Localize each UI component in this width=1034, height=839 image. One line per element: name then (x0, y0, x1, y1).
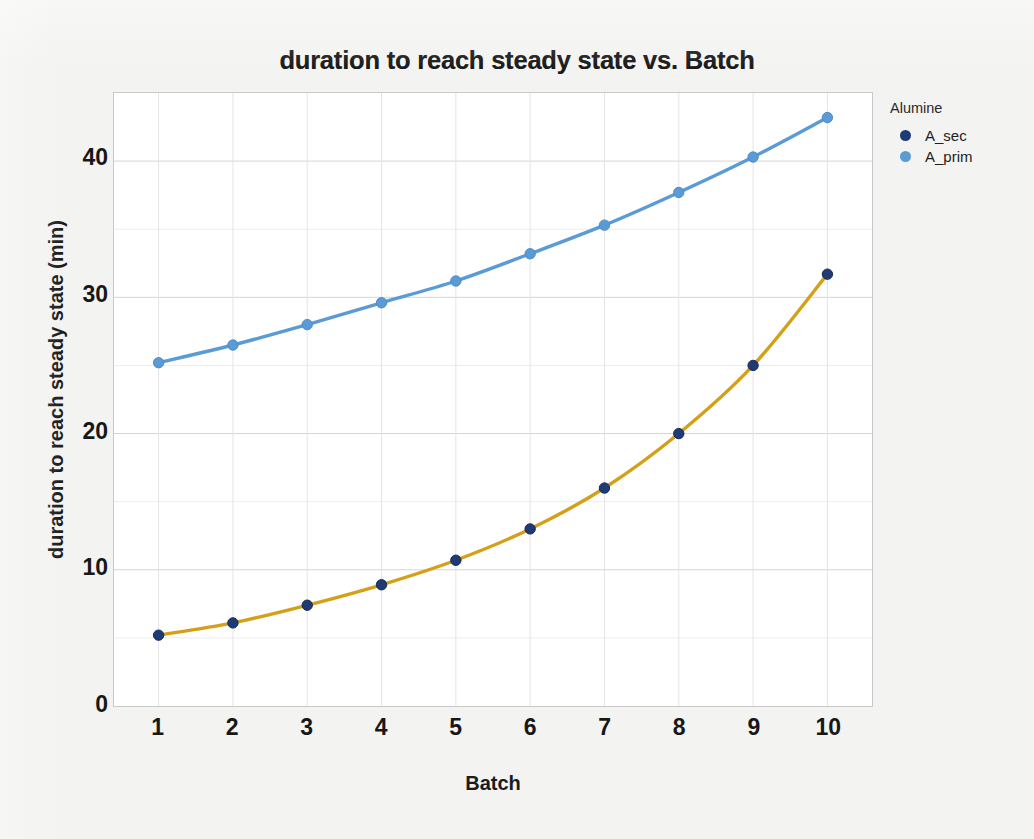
plot-svg (114, 93, 872, 706)
data-point-a_sec-10 (822, 269, 832, 279)
legend-entry-a_sec[interactable]: A_sec (890, 125, 1020, 146)
legend-title: Alumine (890, 100, 1020, 116)
legend-marker-icon (900, 130, 911, 141)
data-point-a_prim-10 (822, 112, 832, 122)
data-point-a_prim-7 (599, 220, 609, 230)
data-point-a_sec-6 (525, 524, 535, 534)
x-tick-label: 5 (426, 714, 486, 741)
vertical-gridlines (159, 93, 828, 706)
chart-title: duration to reach steady state vs. Batch (0, 46, 1034, 75)
x-tick-label: 7 (575, 714, 635, 741)
x-axis-title: Batch (113, 772, 873, 795)
legend-entry-label: A_prim (925, 148, 973, 165)
x-tick-label: 1 (128, 714, 188, 741)
data-point-a_prim-6 (525, 249, 535, 259)
x-tick-label: 6 (500, 714, 560, 741)
data-point-a_sec-5 (451, 555, 461, 565)
data-point-a_sec-4 (376, 580, 386, 590)
series-markers (153, 112, 832, 640)
plot-area (113, 92, 873, 707)
data-point-a_prim-8 (674, 187, 684, 197)
data-point-a_sec-8 (674, 428, 684, 438)
data-point-a_sec-7 (599, 483, 609, 493)
legend-marker-icon (900, 151, 911, 162)
x-tick-label: 3 (277, 714, 337, 741)
series-line-a_sec (159, 274, 828, 635)
series-lines (159, 118, 828, 636)
data-point-a_prim-4 (376, 298, 386, 308)
data-point-a_prim-1 (153, 358, 163, 368)
series-line-a_prim (159, 118, 828, 363)
data-point-a_sec-9 (748, 360, 758, 370)
y-axis-title: duration to reach steady state (min) (45, 120, 68, 660)
legend: Alumine A_secA_prim (890, 100, 1020, 167)
data-point-a_prim-5 (451, 276, 461, 286)
data-point-a_prim-3 (302, 319, 312, 329)
legend-entry-label: A_sec (925, 127, 967, 144)
data-point-a_sec-2 (228, 618, 238, 628)
legend-entry-a_prim[interactable]: A_prim (890, 146, 1020, 167)
data-point-a_prim-9 (748, 152, 758, 162)
data-point-a_sec-3 (302, 600, 312, 610)
x-tick-label: 8 (649, 714, 709, 741)
y-tick-label: 0 (34, 691, 108, 718)
legend-entries: A_secA_prim (890, 125, 1020, 167)
x-tick-label: 2 (202, 714, 262, 741)
x-tick-label: 10 (798, 714, 858, 741)
x-tick-label: 9 (724, 714, 784, 741)
data-point-a_sec-1 (153, 630, 163, 640)
data-point-a_prim-2 (228, 340, 238, 350)
chart-figure: duration to reach steady state vs. Batch… (0, 0, 1034, 839)
x-tick-label: 4 (351, 714, 411, 741)
